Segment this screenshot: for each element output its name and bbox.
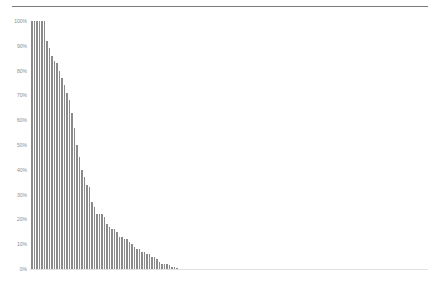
bar [64, 85, 66, 269]
bar [119, 237, 121, 269]
bar [109, 227, 111, 269]
bar [116, 232, 118, 269]
y-tick-label: 50% [0, 142, 27, 148]
bar [84, 177, 86, 269]
y-tick-label: 80% [0, 68, 27, 74]
bar [79, 157, 81, 269]
bar [76, 145, 78, 269]
bar [44, 21, 46, 269]
top-divider [12, 6, 428, 7]
bar [99, 214, 101, 269]
bar [131, 244, 133, 269]
bar [149, 254, 151, 269]
bar [154, 257, 156, 269]
bar [129, 242, 131, 269]
bar [36, 21, 38, 269]
bar [39, 21, 41, 269]
bar [146, 254, 148, 269]
bar [121, 237, 123, 269]
y-tick-label: 90% [0, 43, 27, 49]
bar [49, 48, 51, 269]
bar [156, 259, 158, 269]
bar [54, 61, 56, 269]
bar [46, 41, 48, 269]
bar [59, 71, 61, 269]
bar [106, 224, 108, 269]
bar [114, 229, 116, 269]
bar [34, 21, 36, 269]
bar [101, 214, 103, 269]
bar [151, 257, 153, 269]
bar [66, 93, 68, 269]
bar [71, 113, 73, 269]
bar [134, 247, 136, 269]
bar [136, 249, 138, 269]
bar [89, 187, 91, 269]
y-tick-label: 40% [0, 167, 27, 173]
y-tick-label: 100% [0, 18, 27, 24]
bar [139, 249, 141, 269]
bar [31, 21, 33, 269]
bar [94, 207, 96, 269]
bar [69, 100, 71, 269]
y-tick-label: 60% [0, 117, 27, 123]
y-tick-label: 30% [0, 192, 27, 198]
y-tick-label: 70% [0, 92, 27, 98]
bar [91, 202, 93, 269]
bar-series [30, 21, 428, 269]
bar [104, 217, 106, 269]
bar [61, 78, 63, 269]
bar [144, 252, 146, 269]
bar [51, 56, 53, 269]
bar [96, 214, 98, 269]
bar [41, 21, 43, 269]
bar [124, 239, 126, 269]
y-tick-label: 10% [0, 241, 27, 247]
y-tick-label: 20% [0, 216, 27, 222]
bar [126, 239, 128, 269]
x-axis-baseline [30, 269, 428, 270]
plot-area [30, 21, 428, 269]
y-tick-label: 0% [0, 266, 27, 272]
bar [159, 262, 161, 269]
bar [86, 185, 88, 269]
bar [74, 128, 76, 269]
bar [81, 170, 83, 269]
bar [56, 63, 58, 269]
bar [111, 229, 113, 269]
bar [141, 252, 143, 269]
